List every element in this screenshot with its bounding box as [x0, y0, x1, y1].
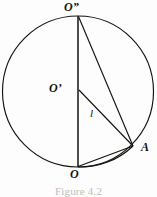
radius-line-icon: [79, 90, 133, 146]
vertex-label-o-prime: O’: [49, 82, 62, 94]
vertex-label-o-double-prime: O”: [64, 1, 79, 13]
vertex-label-o: O: [70, 168, 79, 180]
chord-line-icon-top: [79, 17, 134, 147]
figure-container: O” O’ O A l Figure 4.2: [0, 0, 157, 197]
vertex-label-a: A: [141, 141, 149, 153]
figure-caption: Figure 4.2: [0, 185, 157, 197]
segment-length-label-l: l: [90, 108, 93, 119]
